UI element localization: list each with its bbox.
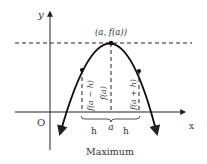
parabola-curve (60, 44, 157, 135)
label-f-a-minus-h: f(a − h) (86, 80, 95, 112)
label-f-a-plus-h: f(a + h) (129, 79, 138, 111)
label-h-left: h (91, 126, 97, 136)
y-axis-label: y (37, 9, 44, 20)
x-axis-label: x (189, 121, 194, 131)
origin-label: O (37, 117, 45, 128)
label-f-a: f(a) (99, 86, 108, 101)
vertex-label: (a, f(a)) (95, 27, 127, 37)
label-h-right: h (123, 126, 129, 136)
point-right (137, 69, 141, 73)
label-a: a (108, 122, 113, 132)
diagram-title: Maximum (86, 146, 134, 157)
maximum-diagram: y x O (a, f(a)) f(a − h) f(a) f(a + h) h… (0, 0, 207, 164)
point-left (80, 68, 84, 72)
point-vertex (109, 41, 113, 45)
